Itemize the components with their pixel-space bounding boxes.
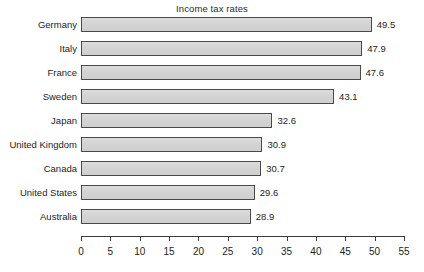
bar-fill (82, 138, 261, 151)
x-axis-tick (110, 236, 111, 241)
x-axis-tick (228, 236, 229, 241)
x-axis-tick-label: 15 (154, 245, 184, 258)
bar-value-label: 30.9 (267, 138, 286, 152)
x-axis-tick-label: 45 (330, 245, 360, 258)
x-axis-tick (140, 236, 141, 241)
x-axis-tick-label: 50 (360, 245, 390, 258)
x-axis-tick-label: 40 (301, 245, 331, 258)
bar (81, 185, 255, 200)
x-axis-tick (316, 236, 317, 241)
category-label: Sweden (0, 90, 77, 104)
bar-row: Canada30.7 (0, 161, 424, 177)
bar-row: Australia28.9 (0, 209, 424, 225)
category-label: United States (0, 186, 77, 200)
bar-row: France47.6 (0, 65, 424, 81)
x-axis-tick-label: 20 (183, 245, 213, 258)
x-axis-tick-label: 5 (95, 245, 125, 258)
category-label: Canada (0, 162, 77, 176)
bar (81, 89, 334, 104)
x-axis-tick-label: 25 (213, 245, 243, 258)
category-label: Japan (0, 114, 77, 128)
bar-fill (82, 210, 250, 223)
bar-fill (82, 186, 254, 199)
bar-value-label: 43.1 (339, 90, 358, 104)
category-label: Germany (0, 18, 77, 32)
x-axis-tick-label: 10 (125, 245, 155, 258)
x-axis-tick-label: 30 (242, 245, 272, 258)
bar-value-label: 32.6 (277, 114, 296, 128)
category-label: United Kingdom (0, 138, 77, 152)
bar-fill (82, 42, 361, 55)
x-axis-tick-label: 35 (272, 245, 302, 258)
bar-value-label: 29.6 (260, 186, 279, 200)
bar (81, 137, 262, 152)
bar-value-label: 47.9 (367, 42, 386, 56)
bar-fill (82, 114, 271, 127)
x-axis-tick (198, 236, 199, 241)
bar-value-label: 47.6 (366, 66, 385, 80)
category-label: Italy (0, 42, 77, 56)
x-axis-tick (404, 236, 405, 241)
bar-value-label: 49.5 (377, 18, 396, 32)
bar (81, 17, 372, 32)
category-label: France (0, 66, 77, 80)
x-axis-tick (257, 236, 258, 241)
bar-row: United Kingdom30.9 (0, 137, 424, 153)
bar (81, 113, 272, 128)
x-axis-tick-label: 55 (389, 245, 419, 258)
bar-value-label: 30.7 (266, 162, 285, 176)
x-axis-tick-label: 0 (66, 245, 96, 258)
bar-fill (82, 162, 260, 175)
bar-chart: Income tax rates Germany49.5Italy47.9Fra… (0, 0, 424, 272)
category-label: Australia (0, 210, 77, 224)
bar (81, 209, 251, 224)
x-axis-tick (375, 236, 376, 241)
bar-row: United States29.6 (0, 185, 424, 201)
bar (81, 161, 261, 176)
bar-row: Sweden43.1 (0, 89, 424, 105)
bar-fill (82, 66, 360, 79)
bar-row: Germany49.5 (0, 17, 424, 33)
bar (81, 65, 361, 80)
bar-row: Japan32.6 (0, 113, 424, 129)
x-axis-tick (81, 236, 82, 241)
plot-area: Germany49.5Italy47.9France47.6Sweden43.1… (0, 0, 424, 272)
x-axis-tick (287, 236, 288, 241)
bar (81, 41, 362, 56)
x-axis-tick (345, 236, 346, 241)
bar-fill (82, 90, 333, 103)
bar-value-label: 28.9 (256, 210, 275, 224)
x-axis-tick (169, 236, 170, 241)
bar-fill (82, 18, 371, 31)
bar-row: Italy47.9 (0, 41, 424, 57)
x-axis-line (81, 236, 405, 237)
